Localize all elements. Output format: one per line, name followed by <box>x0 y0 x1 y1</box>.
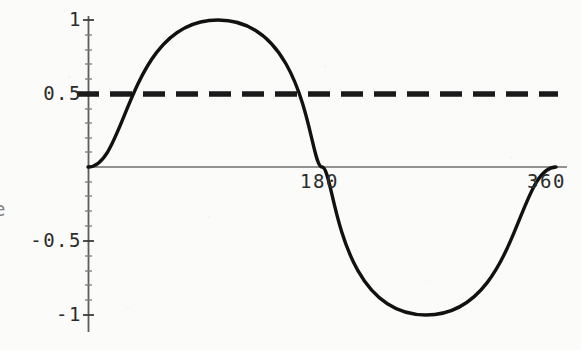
x-tick-label-360: 360 <box>527 172 566 191</box>
sine-plot-figure: 1 0.5 -0.5 -1 180 360 e <box>0 0 581 350</box>
plot-canvas <box>0 0 581 350</box>
y-tick-label-neg-1: -1 <box>22 305 82 324</box>
x-tick-label-180: 180 <box>300 172 339 191</box>
cropped-edge-glyph: e <box>0 200 5 219</box>
y-tick-label-neg-0-5: -0.5 <box>22 231 82 250</box>
y-tick-label-1: 1 <box>22 10 82 29</box>
y-tick-label-0-5: 0.5 <box>22 84 82 103</box>
